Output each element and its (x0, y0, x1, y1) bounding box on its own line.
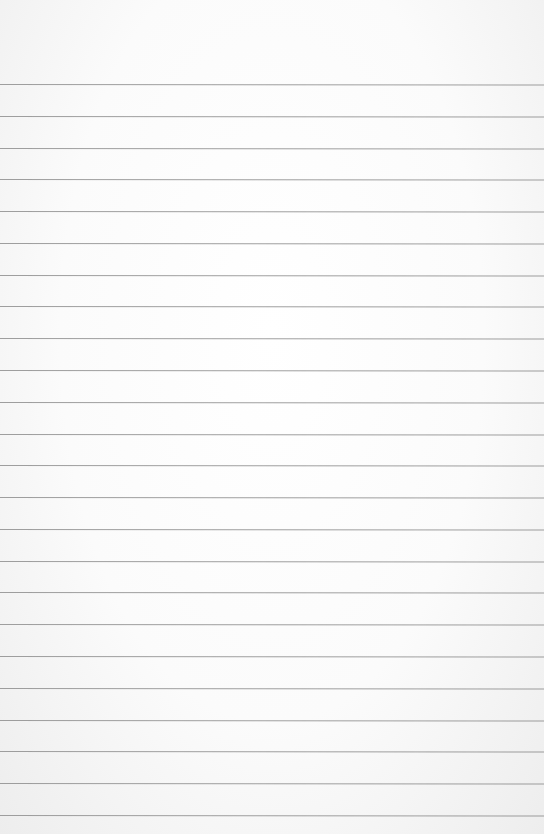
ruled-line (0, 434, 544, 436)
lined-paper (0, 0, 544, 834)
ruled-line (0, 751, 544, 753)
ruled-line (0, 211, 544, 213)
ruled-line (0, 148, 544, 150)
ruled-line (0, 84, 544, 86)
ruled-line (0, 465, 544, 467)
ruled-line (0, 497, 544, 499)
ruled-line (0, 815, 544, 817)
ruled-line (0, 529, 544, 531)
ruled-line (0, 783, 544, 785)
ruled-line (0, 243, 544, 245)
ruled-line (0, 275, 544, 277)
ruled-line (0, 624, 544, 626)
ruled-line (0, 179, 544, 181)
ruled-line (0, 720, 544, 722)
ruled-line (0, 592, 544, 594)
ruled-line (0, 370, 544, 372)
ruled-line (0, 688, 544, 690)
ruled-line (0, 561, 544, 563)
ruled-line (0, 306, 544, 308)
ruled-line (0, 656, 544, 658)
ruled-line (0, 338, 544, 340)
ruled-line (0, 116, 544, 118)
ruled-line (0, 402, 544, 404)
